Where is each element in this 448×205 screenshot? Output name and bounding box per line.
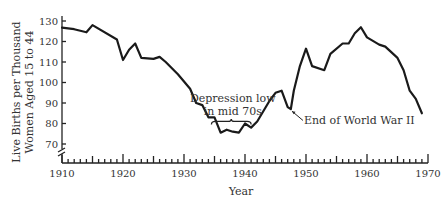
x-ticks: 1910192019301940195019601970 bbox=[49, 154, 440, 179]
annotation-depression-line-1: Depression low bbox=[190, 92, 276, 105]
y-tick-label-70: 70 bbox=[45, 139, 58, 150]
x-tick-label-1970: 1970 bbox=[415, 168, 440, 179]
y-tick-label-120: 120 bbox=[39, 36, 58, 47]
annotations-layer: Depression lowin mid 70sEnd of World War… bbox=[190, 92, 415, 127]
annotation-end-of-wwii: End of World War II bbox=[304, 114, 415, 127]
y-tick-label-110: 110 bbox=[39, 57, 58, 68]
x-tick-label-1950: 1950 bbox=[293, 168, 318, 179]
birth-rate-chart: Live Births per Thousand Women Aged 15 t… bbox=[0, 0, 448, 205]
y-axis-title-line-2: Women Aged 15 to 44 bbox=[23, 31, 36, 154]
y-tick-label-90: 90 bbox=[45, 98, 58, 109]
x-axis-title: Year bbox=[228, 185, 254, 198]
y-axis-title: Live Births per Thousand Women Aged 15 t… bbox=[10, 21, 36, 162]
y-tick-label-100: 100 bbox=[39, 77, 58, 88]
x-tick-label-1920: 1920 bbox=[110, 168, 135, 179]
x-tick-label-1910: 1910 bbox=[49, 168, 74, 179]
x-tick-label-1960: 1960 bbox=[354, 168, 379, 179]
y-tick-label-130: 130 bbox=[39, 16, 58, 27]
x-tick-label-1930: 1930 bbox=[171, 168, 196, 179]
x-tick-label-1940: 1940 bbox=[232, 168, 257, 179]
annotation-depression-line-2: in mid 70s bbox=[204, 105, 263, 118]
y-axis-title-line-1: Live Births per Thousand bbox=[10, 21, 23, 162]
y-tick-label-80: 80 bbox=[45, 118, 58, 129]
